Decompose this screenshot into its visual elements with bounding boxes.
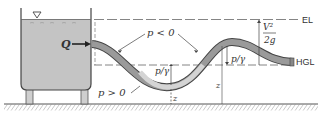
ground	[4, 104, 318, 111]
fluid-diagram: Q p < 0 p > 0 p/γ z p/γ z V² 2g EL HGL	[0, 0, 325, 121]
free-surface-triangle-icon	[33, 12, 41, 18]
pressure-head-label-1: p/γ	[155, 66, 170, 76]
energy-line-label: EL	[302, 15, 313, 25]
reservoir-tank	[21, 8, 91, 90]
velocity-head-denominator: 2g	[263, 35, 276, 45]
negative-pressure-label: p < 0	[147, 27, 175, 38]
flow-label: Q	[61, 38, 71, 51]
pipe	[92, 42, 294, 87]
elevation-label-2: z	[215, 81, 221, 90]
elevation-label-1: z	[172, 94, 178, 103]
positive-pressure-label: p > 0	[98, 87, 126, 98]
hgl-label: HGL	[296, 57, 315, 67]
velocity-head-numerator: V²	[263, 22, 273, 32]
pressure-head-label-2: p/γ	[231, 54, 246, 64]
